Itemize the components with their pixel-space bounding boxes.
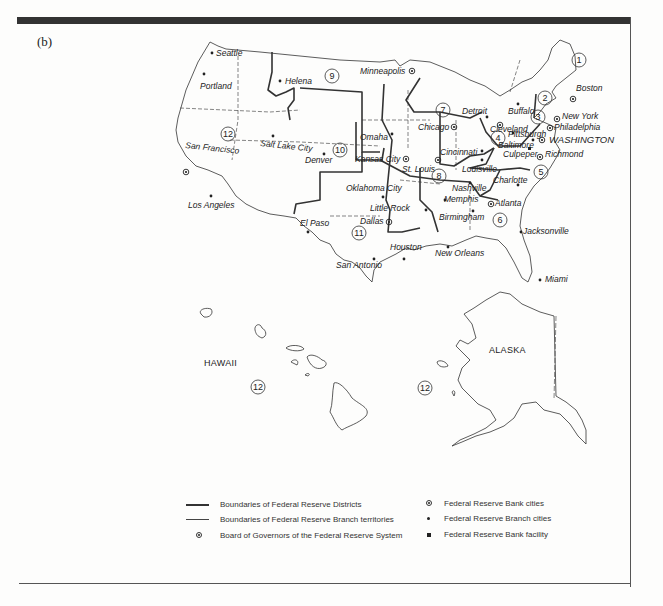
label-new-orleans: New Orleans xyxy=(435,248,485,258)
district-8: 8 xyxy=(436,171,441,181)
label-boston: Boston xyxy=(576,83,603,93)
legend-branch-cities: Federal Reserve Branch cities xyxy=(424,514,551,523)
bullseye-icon xyxy=(424,500,438,508)
label-atlanta: Atlanta xyxy=(494,198,522,208)
label-minneapolis: Minneapolis xyxy=(360,66,406,76)
label-seattle: Seattle xyxy=(216,48,243,58)
legend-board-of-governors: Board of Governors of the Federal Reserv… xyxy=(186,531,402,540)
label-houston: Houston xyxy=(390,242,422,252)
label-dallas: Dallas xyxy=(360,216,384,226)
district-12: 12 xyxy=(223,129,233,139)
label-kansas-city: Kansas City xyxy=(355,154,401,164)
label-salt-lake-city: Salt Lake City xyxy=(260,138,314,154)
legend-bank-cities: Federal Reserve Bank cities xyxy=(424,499,544,508)
district-1: 1 xyxy=(576,55,581,65)
square-icon xyxy=(424,531,438,539)
label-alaska: ALASKA xyxy=(489,345,526,355)
label-nashville: Nashville xyxy=(452,183,487,193)
legend-label: Boundaries of Federal Reserve Branch ter… xyxy=(220,515,394,524)
label-san-francisco: San Francisco xyxy=(185,140,240,156)
label-new-york: New York xyxy=(562,111,599,121)
label-st-louis: St. Louis xyxy=(402,164,436,174)
district-11: 11 xyxy=(354,228,363,238)
label-hawaii: HAWAII xyxy=(204,358,237,368)
label-detroit: Detroit xyxy=(462,106,488,116)
label-pittsburgh: Pittsburgh xyxy=(508,129,547,139)
label-omaha: Omaha xyxy=(360,132,388,142)
district-markers xyxy=(221,53,586,395)
alaska-outline xyxy=(452,292,586,446)
district-2: 2 xyxy=(542,93,547,103)
district-6: 6 xyxy=(497,215,502,225)
label-denver: Denver xyxy=(305,155,334,165)
district-10: 10 xyxy=(335,145,345,155)
label-birmingham: Birmingham xyxy=(439,212,484,222)
district-12-hawaii: 12 xyxy=(253,382,263,392)
hawaii-islands xyxy=(200,308,367,430)
label-jacksonville: Jacksonville xyxy=(522,226,569,236)
label-charlotte: Charlotte xyxy=(493,175,528,185)
label-philadelphia: Philadelphia xyxy=(554,122,601,132)
legend-label: Federal Reserve Branch cities xyxy=(444,514,551,523)
label-memphis: Memphis xyxy=(444,194,479,204)
district-3: 3 xyxy=(535,112,540,122)
label-richmond: Richmond xyxy=(545,149,584,159)
district-9: 9 xyxy=(329,71,334,81)
legend-label: Federal Reserve Bank facility xyxy=(444,530,548,539)
district-5: 5 xyxy=(538,167,543,177)
label-chicago: Chicago xyxy=(418,122,449,132)
thick-line-icon xyxy=(186,501,210,509)
label-washington: WASHINGTON xyxy=(549,134,614,145)
dot-icon xyxy=(424,515,438,523)
district-12-alaska: 12 xyxy=(420,383,430,393)
label-los-angeles: Los Angeles xyxy=(188,200,235,210)
thin-line-icon xyxy=(186,516,210,524)
legend-district-boundaries: Boundaries of Federal Reserve Districts xyxy=(186,500,361,509)
label-cincinnati: Cincinnati xyxy=(440,147,478,157)
legend-bank-facility: Federal Reserve Bank facility xyxy=(424,530,548,539)
label-san-antonio: San Antonio xyxy=(336,260,382,270)
label-oklahoma-city: Oklahoma City xyxy=(346,183,402,193)
label-louisville: Louisville xyxy=(462,164,497,174)
legend-branch-boundaries: Boundaries of Federal Reserve Branch ter… xyxy=(186,515,394,524)
label-miami: Miami xyxy=(545,274,569,284)
label-little-rock: Little Rock xyxy=(370,203,410,213)
bullseye-icon xyxy=(186,532,210,540)
label-el-paso: El Paso xyxy=(300,218,330,228)
label-culpeper: Culpeper xyxy=(503,149,539,159)
legend-label: Federal Reserve Bank cities xyxy=(444,499,544,508)
legend-label: Boundaries of Federal Reserve Districts xyxy=(220,500,361,509)
label-helena: Helena xyxy=(285,76,312,86)
label-buffalo: Buffalo xyxy=(508,106,535,116)
legend-label: Board of Governors of the Federal Reserv… xyxy=(220,531,402,540)
district-7: 7 xyxy=(440,105,445,115)
label-portland: Portland xyxy=(200,81,232,91)
